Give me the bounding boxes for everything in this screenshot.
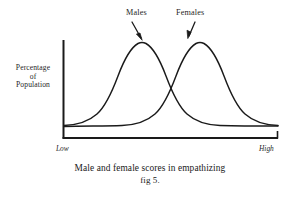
arrow-down-right-icon (132, 22, 142, 40)
x-axis-tick-label-high: High (259, 145, 274, 153)
x-axis-tick-label-low: Low (56, 145, 69, 153)
curve-males (64, 43, 278, 126)
series-label-males: Males (126, 8, 147, 17)
figure-container: Males Females Percentage of Population L… (0, 0, 300, 200)
figure-caption-title: Male and female scores in empathizing (0, 163, 300, 173)
y-axis-label-line-3: Population (6, 81, 60, 90)
y-axis-label: Percentage of Population (6, 64, 60, 90)
series-label-females: Females (176, 8, 204, 17)
arrow-down-left-icon (187, 22, 195, 39)
figure-caption: Male and female scores in empathizing fi… (0, 163, 300, 185)
figure-caption-number: fig 5. (0, 175, 300, 185)
